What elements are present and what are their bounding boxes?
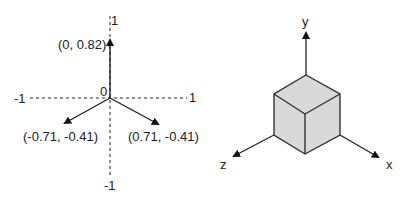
z-axis [234,135,274,156]
vector-label-right-down: (0.71, -0.41) [128,129,199,144]
x-axis-label: x [386,157,393,172]
axis-label-left: -1 [14,91,26,106]
x-axis [340,135,378,157]
y-axis-label: y [302,14,309,29]
vector-right-down [110,98,158,124]
vector-label-left-down: (-0.71, -0.41) [23,129,98,144]
vector-label-up: (0, 0.82) [58,37,106,52]
cube [274,75,340,154]
axis-label-bottom: -1 [104,178,116,193]
axis-label-top: 1 [111,13,118,28]
origin-label: 0 [100,84,107,99]
z-axis-label: z [220,157,227,172]
axis-label-right: 1 [189,90,196,105]
figure: 1 (0, 0.82) 0 -1 1 (-0.71, -0.41) (0.71,… [0,0,409,197]
isometric-cube-diagram: y z x [220,14,393,172]
projection-diagram: 1 (0, 0.82) 0 -1 1 (-0.71, -0.41) (0.71,… [14,13,199,193]
vector-left-down [65,98,110,123]
